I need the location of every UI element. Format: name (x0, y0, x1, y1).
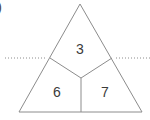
top-region-number: 3 (70, 42, 90, 56)
geometry-figure: ) 3 6 7 (0, 0, 150, 120)
bottom-right-region-number: 7 (95, 85, 115, 99)
partition-line-right (81, 58, 112, 78)
partition-line-left (50, 58, 81, 78)
bottom-left-region-number: 6 (47, 85, 67, 99)
triangle-diagram (0, 0, 150, 120)
